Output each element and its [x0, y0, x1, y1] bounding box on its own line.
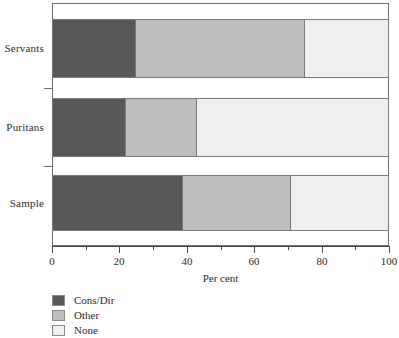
legend-label-none: None: [74, 324, 98, 336]
bar-segment-puritans-cons-dir[interactable]: [52, 98, 126, 157]
legend-swatch-none: [52, 325, 65, 336]
x-axis-tick-20: [119, 246, 120, 253]
bar-segment-puritans-none[interactable]: [197, 98, 389, 157]
x-axis-tick-30: [153, 246, 154, 250]
x-axis-ticklabel-40: 40: [182, 255, 193, 267]
bar-segment-sample-none[interactable]: [291, 175, 389, 231]
x-axis-ticklabel-60: 60: [249, 255, 260, 267]
legend: Cons/Dir Other None: [52, 293, 114, 338]
y-axis-label-servants: Servants: [5, 42, 44, 54]
x-axis-tick-90: [355, 246, 356, 250]
bar-row-servants: [52, 19, 389, 78]
legend-label-other: Other: [74, 309, 99, 321]
bar-segment-servants-cons-dir[interactable]: [52, 19, 136, 78]
x-axis-ticklabel-0: 0: [49, 255, 55, 267]
x-axis-tick-80: [322, 246, 323, 253]
legend-swatch-other: [52, 310, 65, 321]
x-axis-tick-60: [254, 246, 255, 253]
x-axis-ticklabel-20: 20: [114, 255, 125, 267]
x-axis-tick-100: [389, 246, 390, 253]
x-axis-tick-70: [288, 246, 289, 250]
x-axis-title: Per cent: [0, 272, 399, 284]
x-axis-tick-40: [187, 246, 188, 253]
bar-segment-servants-other[interactable]: [136, 19, 305, 78]
x-axis-tick-10: [86, 246, 87, 250]
bar-segment-servants-none[interactable]: [305, 19, 389, 78]
y-axis-label-puritans: Puritans: [6, 121, 44, 133]
x-axis-tick-0: [52, 246, 53, 253]
legend-swatch-cons-dir: [52, 295, 65, 306]
legend-item-none[interactable]: None: [52, 323, 114, 337]
y-axis-tick-2: [44, 166, 52, 167]
bar-row-sample: [52, 175, 389, 231]
y-axis-label-sample: Sample: [10, 197, 44, 209]
x-axis-ticklabel-80: 80: [317, 255, 328, 267]
bar-segment-puritans-other[interactable]: [126, 98, 197, 157]
legend-label-cons-dir: Cons/Dir: [74, 294, 114, 306]
bar-segment-sample-cons-dir[interactable]: [52, 175, 183, 231]
x-axis-title-text: Per cent: [203, 272, 239, 284]
stacked-bar-chart: Servants Puritans Sample: [0, 0, 399, 338]
bar-segment-sample-other[interactable]: [183, 175, 291, 231]
bar-row-puritans: [52, 98, 389, 157]
y-axis-tick-1: [44, 88, 52, 89]
x-axis-tick-50: [221, 246, 222, 250]
x-axis-ticklabel-100: 100: [381, 255, 398, 267]
legend-item-cons-dir[interactable]: Cons/Dir: [52, 293, 114, 307]
legend-item-other[interactable]: Other: [52, 308, 114, 322]
